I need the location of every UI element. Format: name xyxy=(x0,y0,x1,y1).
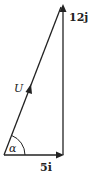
label-12j-coef: 12 xyxy=(69,11,84,24)
label-5i-coef: 5 xyxy=(40,161,48,174)
label-12j: 12j xyxy=(69,11,88,24)
arrowhead-icon xyxy=(26,84,33,94)
label-alpha: α xyxy=(9,142,17,155)
label-12j-unit: j xyxy=(83,11,88,24)
vector-u xyxy=(4,7,61,155)
vector-12j xyxy=(60,4,67,155)
label-5i-unit: i xyxy=(48,161,52,174)
vector-triangle-diagram: U α 5i 12j xyxy=(0,0,88,176)
label-5i: 5i xyxy=(40,161,52,174)
label-u: U xyxy=(14,82,24,95)
